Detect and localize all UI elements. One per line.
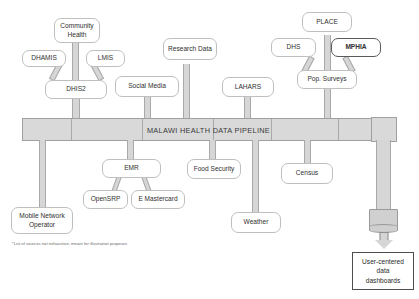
node-lahars-label: LAHARS bbox=[235, 83, 261, 91]
diagram-canvas: MALAWI HEALTH DATA PIPELINE Community He… bbox=[0, 0, 419, 299]
node-pop-surveys[interactable]: Pop. Surveys bbox=[297, 70, 357, 89]
node-community-health-line2: Health bbox=[67, 31, 86, 39]
node-weather[interactable]: Weather bbox=[231, 212, 281, 233]
node-research-data[interactable]: Research Data bbox=[163, 38, 217, 60]
footnote-text: *List of sources not exhaustive, meant f… bbox=[12, 241, 127, 246]
node-weather-label: Weather bbox=[244, 218, 269, 226]
pipe-community-health-to-dhis2 bbox=[72, 42, 79, 80]
malawi-health-data-pipeline-bar: MALAWI HEALTH DATA PIPELINE bbox=[22, 118, 395, 141]
node-social-media[interactable]: Social Media bbox=[115, 76, 179, 97]
node-e-mastercard-label: E Mastercard bbox=[138, 195, 177, 203]
pipe-place-to-pop-surveys bbox=[324, 35, 331, 73]
node-opensrp-label: OpenSRP bbox=[91, 195, 121, 203]
node-census[interactable]: Census bbox=[281, 163, 333, 184]
node-dhis2-label: DHIS2 bbox=[66, 85, 85, 93]
output-line-3: dashboards bbox=[366, 276, 400, 286]
node-dhamis[interactable]: DHAMIS bbox=[22, 50, 66, 67]
node-place-label: PLACE bbox=[316, 18, 338, 26]
node-social-media-label: Social Media bbox=[128, 82, 166, 90]
node-research-data-label: Research Data bbox=[168, 45, 212, 53]
pipe-trunk-to-food-security bbox=[209, 140, 216, 160]
node-dhs[interactable]: DHS bbox=[271, 38, 316, 57]
node-lahars[interactable]: LAHARS bbox=[222, 77, 274, 97]
node-lmis-label: LMIS bbox=[98, 54, 113, 62]
node-mphia-label: MPHIA bbox=[345, 43, 366, 51]
node-dhamis-label: DHAMIS bbox=[31, 54, 57, 62]
node-mobile-network-operator[interactable]: Mobile Network Operator bbox=[11, 207, 73, 234]
node-pop-surveys-label: Pop. Surveys bbox=[307, 75, 346, 83]
pipe-research-data-to-trunk bbox=[183, 64, 190, 122]
node-dhis2[interactable]: DHIS2 bbox=[45, 80, 107, 99]
node-place[interactable]: PLACE bbox=[302, 12, 352, 32]
output-line-2: data bbox=[377, 266, 390, 276]
pipeline-label: MALAWI HEALTH DATA PIPELINE bbox=[23, 125, 394, 134]
node-emr-label: EMR bbox=[124, 164, 139, 172]
pipe-trunk-to-weather bbox=[252, 140, 259, 212]
node-food-security-label: Food Security bbox=[194, 165, 235, 173]
node-dhs-label: DHS bbox=[287, 43, 301, 51]
node-community-health-line1: Community bbox=[60, 22, 93, 30]
node-emr[interactable]: EMR bbox=[102, 159, 161, 178]
node-community-health[interactable]: Community Health bbox=[54, 18, 100, 43]
node-census-label: Census bbox=[296, 169, 318, 177]
pipe-trunk-to-mobile-network-operator bbox=[39, 140, 46, 208]
output-user-centered-data-dashboards[interactable]: User-centered data dashboards bbox=[352, 252, 414, 290]
pipe-trunk-to-emr bbox=[127, 140, 134, 160]
node-opensrp[interactable]: OpenSRP bbox=[83, 190, 128, 209]
node-e-mastercard[interactable]: E Mastercard bbox=[131, 190, 185, 209]
node-mphia[interactable]: MPHIA bbox=[331, 38, 381, 57]
node-lmis[interactable]: LMIS bbox=[86, 50, 125, 67]
pipe-trunk-to-census bbox=[304, 140, 311, 164]
pipe-trunk-outlet-downpipe bbox=[376, 140, 391, 212]
output-line-1: User-centered bbox=[362, 257, 404, 267]
node-mno-line2: Operator bbox=[29, 221, 55, 229]
pipeline-elbow bbox=[371, 117, 397, 142]
output-arrow-icon bbox=[374, 232, 394, 250]
node-mno-line1: Mobile Network bbox=[19, 212, 64, 220]
node-food-security[interactable]: Food Security bbox=[187, 159, 241, 179]
